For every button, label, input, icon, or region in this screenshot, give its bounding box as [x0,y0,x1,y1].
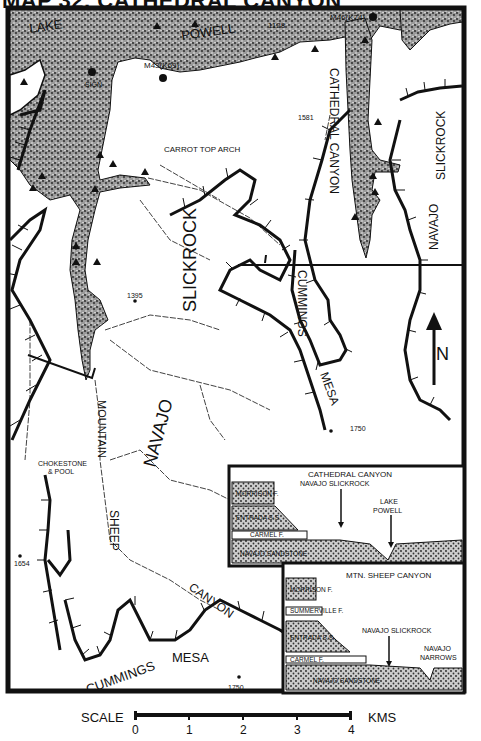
label-carrot-top-arch: CARROT TOP ARCH [164,145,241,154]
svg-text:CARMEL F.: CARMEL F. [250,531,284,538]
scale-unit: KMS [368,710,396,725]
label-sheep: SHEEP [107,510,121,551]
svg-text:ENTRADA S.S.: ENTRADA S.S. [290,634,335,641]
scale-tick-3: 3 [294,723,301,737]
svg-text:NARROWS: NARROWS [420,654,457,661]
inset-title-cathedral: CATHEDRAL CANYON [308,470,392,479]
inset-title-mtn-sheep: MTN. SHEEP CANYON [346,571,431,580]
scale-ruler [133,708,355,724]
label-slickrock-center: SLICKROCK [180,208,200,312]
svg-text:NAVAJO: NAVAJO [424,645,452,652]
svg-text:NAVAJO SLICKROCK: NAVAJO SLICKROCK [362,627,432,634]
svg-text:NAVAJO SANDSTONE: NAVAJO SANDSTONE [240,550,308,557]
scale-tick-1: 1 [186,723,193,737]
label-mountain: MOUNTAIN [96,400,108,458]
topographic-map: LAKE POWELL 1128 M46(K74) SIGN M43(K69) … [0,0,481,741]
elev-1654: 1654 [14,560,30,567]
label-sign: SIGN [85,81,102,88]
label-chokestone: CHOKESTONE [38,460,87,467]
scale-bar: SCALE 0 1 2 3 4 KMS [0,700,481,741]
scale-label: SCALE [81,710,124,725]
label-mesa-south: MESA [172,650,209,665]
label-m43: M43(K69) [144,61,179,70]
inset-cathedral-canyon: CATHEDRAL CANYON MORRISON F. ENTRADA S.S… [229,466,464,566]
svg-text:CARMEL F.: CARMEL F. [290,656,324,663]
svg-text:ENTRADA S.S.: ENTRADA S.S. [236,514,281,521]
elev-1128: 1128 [268,21,286,30]
elev-1581: 1581 [298,114,314,121]
label-pool: & POOL [48,468,74,475]
elev-1750-south: 1750 [228,684,244,691]
inset-mtn-sheep-canyon: MTN. SHEEP CANYON MORRISON F. SUMMERVILL… [283,563,464,693]
label-cummings-north: CUMMINGS [295,270,309,337]
label-m46: M46(K74) [330,13,365,22]
elev-1750-north: 1750 [350,425,366,432]
svg-text:POWELL: POWELL [373,507,402,514]
elev-1395: 1395 [127,292,143,299]
svg-text:LAKE: LAKE [380,498,398,505]
label-slickrock-east: SLICKROCK [434,111,448,180]
svg-text:NAVAJO SLICKROCK: NAVAJO SLICKROCK [300,480,370,487]
svg-text:SUMMERVILLE F.: SUMMERVILLE F. [290,607,344,614]
label-navajo-east: NAVAJO [427,204,441,250]
svg-text:NAVAJO SANDSTONE: NAVAJO SANDSTONE [313,677,381,684]
label-cathedral-canyon: CATHEDRAL CANYON [327,68,341,194]
scale-tick-0: 0 [132,723,139,737]
north-label: N [436,344,449,364]
scale-tick-2: 2 [240,723,247,737]
svg-text:MORRISON F.: MORRISON F. [290,586,333,593]
svg-text:MORRISON F.: MORRISON F. [236,490,279,497]
scale-tick-4: 4 [348,723,355,737]
